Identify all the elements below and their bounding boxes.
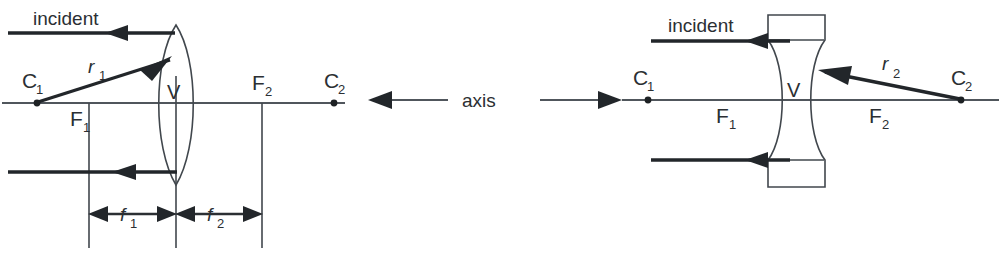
label-r2-subscript: 2 xyxy=(893,66,900,81)
label-r2-letter: r xyxy=(882,53,889,74)
incident-label-left: incident xyxy=(33,8,99,29)
label-c1-right: C 1 xyxy=(633,66,654,94)
label-c1-left: C 1 xyxy=(22,69,43,97)
axis-arrowhead-left xyxy=(368,91,392,109)
incident-ray-lower xyxy=(8,164,177,180)
dimension-arrowhead-left xyxy=(88,206,108,222)
ray-arrowhead xyxy=(745,33,768,49)
optics-ray-diagram-figure: incident C 1 F 1 F 2 C 2 r 1 V xyxy=(0,0,1001,255)
axis-label: axis xyxy=(462,90,496,111)
label-c2-right-subscript: 2 xyxy=(965,79,972,94)
label-f1-left-letter: F xyxy=(70,107,83,130)
ray-arrowhead xyxy=(105,25,128,41)
label-c1-left-subscript: 1 xyxy=(36,82,43,97)
label-f2-left-letter: F xyxy=(252,71,265,94)
label-f2-dimension-subscript: 2 xyxy=(217,216,224,231)
label-f2-right-subscript: 2 xyxy=(882,117,889,132)
label-f2-left-subscript: 2 xyxy=(265,84,272,99)
label-f1-right-letter: F xyxy=(716,104,729,127)
label-r1-letter: r xyxy=(88,56,95,77)
label-c1-right-subscript: 1 xyxy=(647,79,654,94)
label-f1-dimension-subscript: 1 xyxy=(130,216,137,231)
label-c2-left: C 2 xyxy=(324,69,345,97)
label-r2: r 2 xyxy=(882,53,900,81)
label-f2-dimension: f 2 xyxy=(207,204,224,231)
label-f1-left: F 1 xyxy=(70,107,90,135)
label-f1-dimension: f 1 xyxy=(120,204,137,231)
label-f2-right-letter: F xyxy=(869,104,882,127)
ray-arrowhead xyxy=(140,56,172,81)
label-vertex-left: V xyxy=(167,81,181,103)
label-f1-right-subscript: 1 xyxy=(729,117,736,132)
dimension-arrowhead-right xyxy=(243,206,263,222)
label-c2-right-letter: C xyxy=(951,66,966,89)
ray-arrowhead xyxy=(818,66,852,85)
label-c2-left-letter: C xyxy=(324,69,339,92)
point-marker-c1 xyxy=(34,100,41,107)
axis-annotation: axis xyxy=(368,90,622,111)
right-panel-diverging-lens: incident C 1 F 1 F 2 C 2 r 2 V xyxy=(622,15,999,187)
axis-arrowhead-right xyxy=(598,91,622,109)
ray-arrowhead xyxy=(745,152,768,168)
label-vertex-right: V xyxy=(787,79,801,101)
point-marker-c2 xyxy=(958,97,965,104)
label-f2-left: F 2 xyxy=(252,71,272,99)
left-panel-converging-lens: incident C 1 F 1 F 2 C 2 r 1 V xyxy=(2,8,345,248)
label-c2-left-subscript: 2 xyxy=(338,82,345,97)
dimension-arrowhead-right xyxy=(157,206,177,222)
point-marker-c1 xyxy=(645,97,652,104)
label-f1-right: F 1 xyxy=(716,104,736,132)
point-marker-c2 xyxy=(331,100,338,107)
label-c1-left-letter: C xyxy=(22,69,37,92)
label-f1-left-subscript: 1 xyxy=(83,120,90,135)
ray-arrowhead xyxy=(112,164,136,180)
label-c2-right: C 2 xyxy=(951,66,972,94)
label-f2-right: F 2 xyxy=(869,104,889,132)
incident-ray-lower xyxy=(651,152,790,168)
radius-ray-r2 xyxy=(818,66,960,99)
label-c1-right-letter: C xyxy=(633,66,648,89)
incident-label-right: incident xyxy=(668,15,734,36)
dimension-arrowhead-left xyxy=(175,206,195,222)
label-r1: r 1 xyxy=(88,56,106,83)
label-r1-subscript: 1 xyxy=(99,68,106,83)
